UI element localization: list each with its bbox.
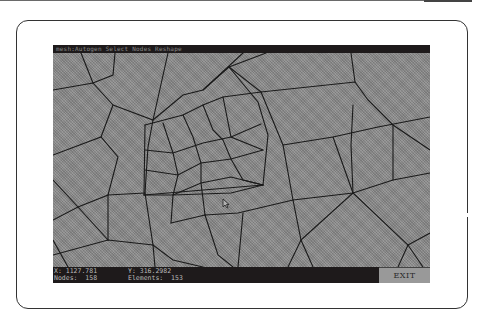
status-col-y-elements: Y: 316.2982 Elements: 153: [128, 268, 183, 282]
frame-tick-mark: [466, 213, 469, 217]
page-top-rule-accent: [424, 0, 472, 2]
mesh-editor-screen: mesh:Autogen Select Nodes Reshape: [53, 45, 430, 283]
nodes-count: 158: [85, 274, 97, 282]
mouse-pointer-icon: [222, 198, 230, 209]
nodes-label: Nodes:: [54, 274, 77, 282]
page-top-rule: [0, 0, 472, 1]
elements-count: 153: [171, 274, 183, 282]
status-bar: X: 1127.781 Nodes: 158 Y: 316.2982 Eleme…: [53, 267, 379, 283]
elements-label: Elements:: [128, 274, 163, 282]
finite-element-mesh-canvas[interactable]: [53, 45, 430, 267]
exit-button[interactable]: EXIT: [379, 267, 430, 283]
status-col-x-nodes: X: 1127.781 Nodes: 158: [54, 268, 97, 282]
